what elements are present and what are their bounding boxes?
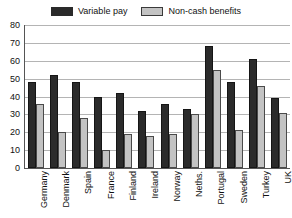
bar-group xyxy=(25,25,47,168)
bar-non-cash-benefits xyxy=(257,86,265,168)
x-tick: Finland xyxy=(113,170,135,218)
x-tick: Ireland xyxy=(135,170,157,218)
x-tick: UK xyxy=(268,170,290,218)
y-axis: 80706050403020100 xyxy=(0,20,22,168)
bar-non-cash-benefits xyxy=(191,114,199,168)
bar-variable-pay xyxy=(161,104,169,168)
bar-group xyxy=(135,25,157,168)
bar-variable-pay xyxy=(249,59,257,168)
chart-legend: Variable pay Non-cash benefits xyxy=(0,2,292,20)
x-tick: Neths. xyxy=(179,170,201,218)
y-tick-label: 60 xyxy=(10,56,20,65)
bar-non-cash-benefits xyxy=(36,104,44,168)
bar-non-cash-benefits xyxy=(58,132,66,168)
x-tick: Sweden xyxy=(224,170,246,218)
y-tick-label: 20 xyxy=(10,128,20,137)
legend-entry-non-cash-benefits: Non-cash benefits xyxy=(141,6,241,16)
x-axis: GermanyDenmarkSpainFranceFinlandIrelandN… xyxy=(24,170,290,218)
x-tick: Germany xyxy=(24,170,46,218)
plot-wrapper: 80706050403020100 xyxy=(0,20,292,172)
legend-label-variable-pay: Variable pay xyxy=(78,6,127,16)
bar-non-cash-benefits xyxy=(213,70,221,168)
bar-variable-pay xyxy=(271,98,279,168)
bar-non-cash-benefits xyxy=(235,130,243,168)
bar-variable-pay xyxy=(72,82,80,168)
bar-variable-pay xyxy=(205,46,213,168)
bar-non-cash-benefits xyxy=(279,113,287,168)
x-tick: France xyxy=(91,170,113,218)
bar-group xyxy=(47,25,69,168)
bar-group xyxy=(113,25,135,168)
bar-variable-pay xyxy=(227,82,235,168)
gridline xyxy=(25,168,290,169)
x-tick: Norway xyxy=(157,170,179,218)
bar-group xyxy=(69,25,91,168)
bar-group xyxy=(202,25,224,168)
bar-non-cash-benefits xyxy=(80,118,88,168)
bar-group xyxy=(246,25,268,168)
y-tick-label: 10 xyxy=(10,146,20,155)
plot-area xyxy=(24,25,290,169)
bar-variable-pay xyxy=(94,97,102,169)
bar-group xyxy=(91,25,113,168)
legend-swatch-icon-variable-pay xyxy=(51,7,73,16)
y-tick-label: 30 xyxy=(10,110,20,119)
x-tick: Denmark xyxy=(46,170,68,218)
bar-variable-pay xyxy=(138,111,146,168)
y-tick-label: 70 xyxy=(10,38,20,47)
bar-group xyxy=(224,25,246,168)
y-tick-label: 40 xyxy=(10,92,20,101)
x-tick-label: UK xyxy=(283,171,292,184)
bar-chart: Variable pay Non-cash benefits 807060504… xyxy=(0,0,292,218)
bar-variable-pay xyxy=(183,109,191,168)
bar-variable-pay xyxy=(50,75,58,168)
bar-non-cash-benefits xyxy=(124,134,132,168)
bars-layer xyxy=(25,25,290,168)
bar-non-cash-benefits xyxy=(102,150,110,168)
x-tick: Turkey xyxy=(246,170,268,218)
x-tick: Portugal xyxy=(201,170,223,218)
bar-group xyxy=(157,25,179,168)
x-tick: Spain xyxy=(68,170,90,218)
bar-non-cash-benefits xyxy=(169,134,177,168)
y-tick-label: 80 xyxy=(10,21,20,30)
bar-group xyxy=(180,25,202,168)
bar-variable-pay xyxy=(28,82,36,168)
bar-non-cash-benefits xyxy=(146,136,154,168)
legend-swatch-icon-non-cash-benefits xyxy=(141,7,163,16)
bar-variable-pay xyxy=(116,93,124,168)
y-tick-label: 0 xyxy=(15,164,20,173)
legend-label-non-cash-benefits: Non-cash benefits xyxy=(168,6,241,16)
y-tick-label: 50 xyxy=(10,74,20,83)
bar-group xyxy=(268,25,290,168)
legend-entry-variable-pay: Variable pay xyxy=(51,6,127,16)
